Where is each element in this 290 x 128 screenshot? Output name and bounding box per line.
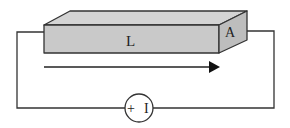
battery: + I (125, 94, 153, 122)
conductor-top-face (44, 11, 247, 25)
circuit-diagram: L A + I (0, 0, 290, 128)
length-label: L (126, 33, 135, 49)
battery-minus: I (144, 101, 149, 116)
conductor-block (44, 11, 247, 53)
arrowhead-icon (209, 61, 220, 73)
area-label: A (225, 25, 236, 40)
battery-plus: + (127, 101, 135, 116)
current-arrow (44, 61, 220, 73)
